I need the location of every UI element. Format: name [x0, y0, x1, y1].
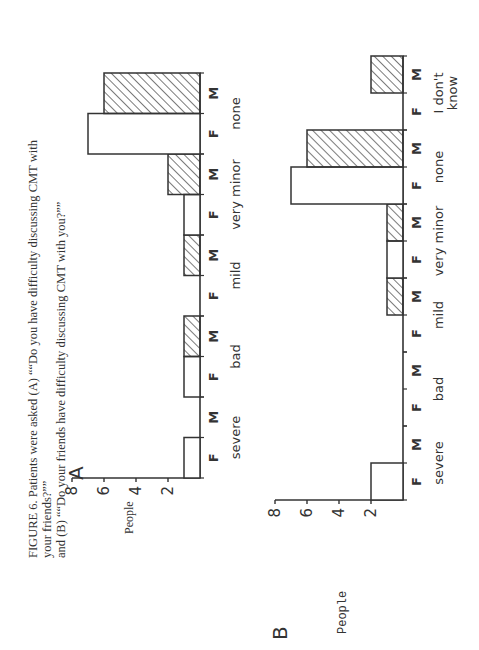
bar-severe-f — [184, 438, 200, 479]
category-label: severe — [431, 441, 446, 485]
sex-label: F — [409, 477, 424, 486]
category-label: very minor — [431, 205, 446, 276]
category-label: bad — [431, 377, 446, 401]
sex-label: F — [206, 291, 221, 300]
category-label: none — [228, 97, 243, 129]
sex-label: F — [206, 210, 221, 219]
chart-b: 2468FMsevereFMbadFMmildFMvery minorFMnon… — [266, 56, 460, 518]
sex-label: F — [206, 453, 221, 462]
y-tick-label: 4 — [330, 508, 348, 518]
bar-very-minor-m — [168, 154, 200, 195]
chart-a: 2468FMsevereFMbadFMmildFMvery minorFMnon… — [63, 73, 243, 496]
bar-mild-m — [387, 278, 403, 315]
category-label: none — [431, 151, 446, 183]
sex-label: M — [409, 68, 424, 81]
sex-label: M — [206, 87, 221, 100]
sex-label: F — [409, 403, 424, 412]
category-label: I don't — [431, 72, 446, 113]
bar-bad-m — [184, 316, 200, 357]
category-label: mild — [431, 301, 446, 329]
sex-label: M — [206, 168, 221, 181]
sex-label: F — [409, 181, 424, 190]
bar-none-m — [307, 130, 403, 167]
sex-label: M — [409, 216, 424, 229]
bar-very-minor-m — [387, 204, 403, 241]
bar-none-f — [291, 167, 403, 204]
bar-very-minor-f — [184, 195, 200, 236]
category-label: know — [445, 75, 460, 110]
y-tick-label: 2 — [362, 508, 380, 518]
sex-label: F — [206, 129, 221, 138]
sex-label: M — [409, 142, 424, 155]
y-tick-label: 8 — [266, 508, 284, 518]
y-tick-label: 8 — [63, 486, 81, 496]
y-tick-label: 6 — [298, 508, 316, 518]
bar-charts: 2468FMsevereFMbadFMmildFMvery minorFMnon… — [0, 0, 479, 650]
bar-i-don-t-know-m — [371, 56, 403, 93]
y-tick-label: 4 — [127, 486, 145, 496]
sex-label: M — [206, 249, 221, 262]
bar-severe-f — [371, 463, 403, 500]
y-tick-label: 2 — [159, 486, 177, 496]
y-tick-label: 6 — [95, 486, 113, 496]
sex-label: M — [206, 411, 221, 424]
bar-very-minor-f — [387, 241, 403, 278]
bar-bad-f — [184, 357, 200, 398]
sex-label: F — [409, 255, 424, 264]
sex-label: F — [206, 372, 221, 381]
sex-label: M — [206, 330, 221, 343]
sex-label: F — [409, 329, 424, 338]
bar-none-m — [104, 73, 200, 114]
sex-label: M — [409, 290, 424, 303]
figure-6: FIGURE 6. Patients were asked (A) ““Do y… — [0, 0, 479, 650]
bar-none-f — [88, 114, 200, 155]
category-label: very minor — [228, 159, 243, 230]
category-label: severe — [228, 416, 243, 460]
sex-label: M — [409, 438, 424, 451]
sex-label: M — [409, 364, 424, 377]
sex-label: F — [409, 107, 424, 116]
category-label: mild — [228, 261, 243, 289]
bar-mild-m — [184, 235, 200, 276]
category-label: bad — [228, 344, 243, 368]
